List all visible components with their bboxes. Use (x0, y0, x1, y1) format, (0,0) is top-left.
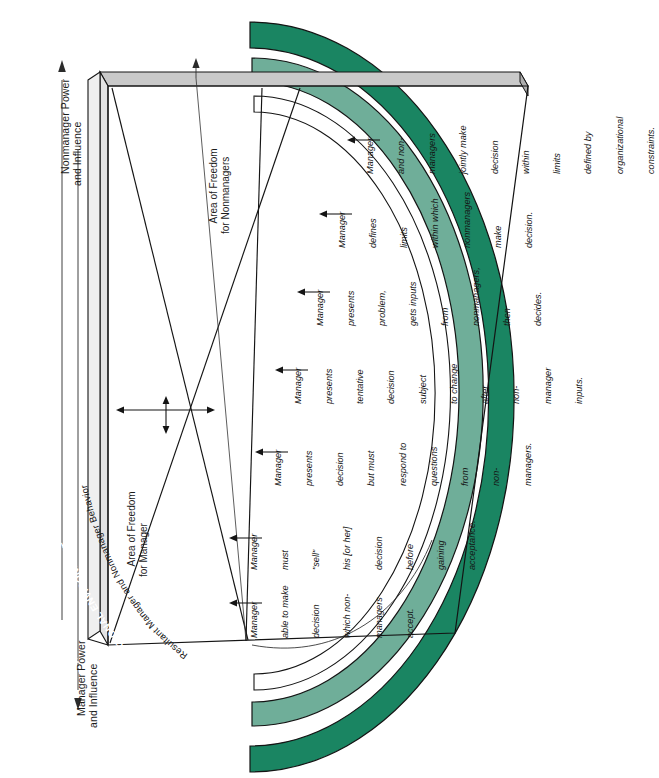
continuum-block-7: Manager and non- managers jointly make d… (344, 117, 659, 174)
area-freedom-nonmanagers-label: Area of Freedom for Nonmanagers (196, 148, 244, 234)
nonmanager-power-label: Nonmanager Power and Influence (46, 79, 96, 186)
continuum-block-1: Manager able to make decision which non-… (228, 585, 436, 638)
continuum-block-6: Manager defines limits within which nonm… (316, 192, 555, 248)
center-cross-arrows (116, 396, 215, 434)
continuum-block-3: Manager presents decision but must respo… (252, 443, 554, 486)
continuum-block-5: Manager presents problem, gets inputs fr… (294, 267, 565, 326)
continuum-block-2: Manager must "sell" his [or her] decisio… (228, 520, 499, 570)
continuum-block-4: Manager presents tentative decision subj… (272, 364, 605, 404)
area-freedom-manager-label: Area of Freedom for Manager (114, 491, 162, 577)
manager-power-label: Manager Power and Influence (62, 641, 112, 729)
manager-power-arrow (74, 150, 82, 710)
